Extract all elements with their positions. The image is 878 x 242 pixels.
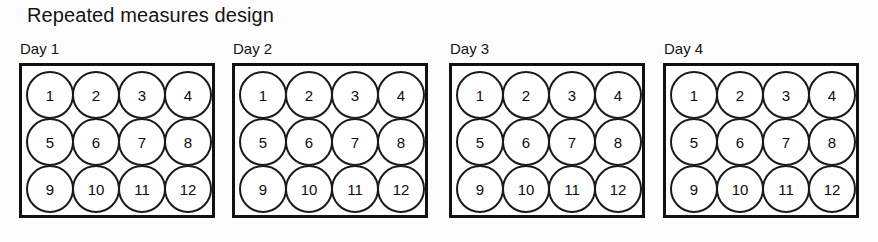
subject-circle: 10	[502, 165, 550, 213]
subject-circle: 7	[548, 118, 596, 166]
subject-circle: 10	[72, 165, 120, 213]
subject-circle: 8	[164, 118, 212, 166]
subject-box-day-1: 1 2 3 4 5 6 7 8 9 10 11 12	[19, 63, 215, 218]
subject-circle: 3	[762, 71, 810, 119]
subject-circle: 7	[762, 118, 810, 166]
subject-circle: 6	[502, 118, 550, 166]
subject-circle: 4	[377, 71, 425, 119]
subject-grid-day-1: 1 2 3 4 5 6 7 8 9 10 11 12	[26, 71, 212, 215]
subject-circle: 3	[331, 71, 379, 119]
subject-circle: 12	[808, 165, 856, 213]
day-label-2: Day 2	[233, 40, 428, 58]
subject-circle: 5	[456, 118, 504, 166]
subject-circle: 9	[456, 165, 504, 213]
subject-circle: 11	[331, 165, 379, 213]
subject-circle: 2	[72, 71, 120, 119]
subject-circle: 5	[239, 118, 287, 166]
subject-circle: 2	[716, 71, 764, 119]
subject-circle: 11	[118, 165, 166, 213]
day-label-4: Day 4	[664, 40, 859, 58]
day-panel-2: Day 2 1 2 3 4 5 6 7 8 9 10 11 12	[232, 40, 428, 218]
subject-circle: 3	[548, 71, 596, 119]
subject-circle: 4	[594, 71, 642, 119]
subject-circle: 9	[26, 165, 74, 213]
subject-circle: 4	[164, 71, 212, 119]
subject-circle: 3	[118, 71, 166, 119]
subject-circle: 5	[670, 118, 718, 166]
day-panel-3: Day 3 1 2 3 4 5 6 7 8 9 10 11 12	[449, 40, 645, 218]
subject-circle: 5	[26, 118, 74, 166]
subject-circle: 12	[377, 165, 425, 213]
subject-circle: 11	[762, 165, 810, 213]
figure-title: Repeated measures design	[27, 3, 274, 27]
subject-circle: 12	[594, 165, 642, 213]
subject-circle: 12	[164, 165, 212, 213]
subject-circle: 1	[456, 71, 504, 119]
subject-circle: 9	[239, 165, 287, 213]
subject-box-day-3: 1 2 3 4 5 6 7 8 9 10 11 12	[449, 63, 645, 218]
subject-circle: 6	[285, 118, 333, 166]
subject-circle: 4	[808, 71, 856, 119]
day-label-1: Day 1	[20, 40, 215, 58]
subject-circle: 7	[331, 118, 379, 166]
subject-grid-day-2: 1 2 3 4 5 6 7 8 9 10 11 12	[239, 71, 425, 215]
subject-box-day-4: 1 2 3 4 5 6 7 8 9 10 11 12	[663, 63, 859, 218]
subject-circle: 6	[72, 118, 120, 166]
subject-grid-day-4: 1 2 3 4 5 6 7 8 9 10 11 12	[670, 71, 856, 215]
subject-circle: 10	[285, 165, 333, 213]
subject-circle: 6	[716, 118, 764, 166]
day-panel-4: Day 4 1 2 3 4 5 6 7 8 9 10 11 12	[663, 40, 859, 218]
subject-circle: 10	[716, 165, 764, 213]
subject-circle: 8	[808, 118, 856, 166]
subject-circle: 8	[594, 118, 642, 166]
subject-box-day-2: 1 2 3 4 5 6 7 8 9 10 11 12	[232, 63, 428, 218]
subject-circle: 2	[502, 71, 550, 119]
subject-circle: 11	[548, 165, 596, 213]
day-label-3: Day 3	[450, 40, 645, 58]
subject-circle: 1	[26, 71, 74, 119]
subject-circle: 2	[285, 71, 333, 119]
subject-circle: 1	[239, 71, 287, 119]
subject-circle: 7	[118, 118, 166, 166]
subject-circle: 9	[670, 165, 718, 213]
subject-circle: 8	[377, 118, 425, 166]
day-panel-1: Day 1 1 2 3 4 5 6 7 8 9 10 11 12	[19, 40, 215, 218]
subject-grid-day-3: 1 2 3 4 5 6 7 8 9 10 11 12	[456, 71, 642, 215]
subject-circle: 1	[670, 71, 718, 119]
